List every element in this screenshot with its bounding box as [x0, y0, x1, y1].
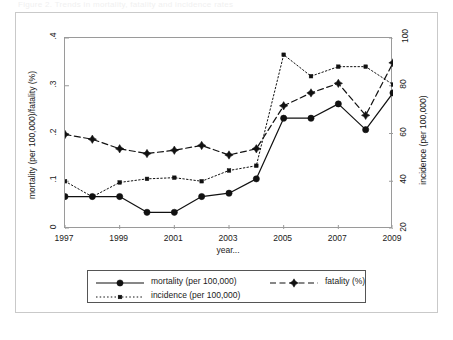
- data-point-diamond: [290, 279, 298, 287]
- legend-label: mortality (per 100,000): [151, 276, 237, 286]
- data-point-diamond: [197, 141, 205, 149]
- page-header-text: Figure 2. Trends in mortality, fatality …: [18, 0, 438, 12]
- data-point-circle: [253, 176, 259, 182]
- data-point-diamond: [170, 146, 178, 154]
- data-point-square: [118, 295, 122, 299]
- legend-item-fatality: fatality (%): [268, 274, 365, 288]
- data-point-square: [145, 177, 149, 181]
- data-point-diamond: [88, 135, 96, 143]
- tick-text: 80: [398, 79, 408, 88]
- data-point-square: [309, 74, 313, 78]
- data-point-diamond: [65, 130, 69, 138]
- data-point-diamond: [279, 102, 287, 110]
- data-point-diamond: [252, 145, 260, 153]
- data-point-circle: [117, 193, 123, 199]
- data-point-square: [337, 65, 341, 69]
- data-point-circle: [144, 209, 150, 215]
- series-line: [65, 55, 393, 197]
- left-axis-tick-label: .3: [34, 79, 56, 89]
- legend-key-svg: [268, 277, 320, 289]
- x-axis-tick-label: 2007: [317, 233, 357, 243]
- legend-label: incidence (per 100,000): [151, 290, 240, 300]
- data-point-square: [173, 176, 177, 180]
- data-point-circle: [335, 101, 341, 107]
- right-axis-tick-label: 40: [398, 174, 422, 184]
- left-axis-tick-label: 0: [34, 222, 56, 232]
- data-point-circle: [171, 209, 177, 215]
- tick-text: .3: [47, 80, 57, 87]
- legend-key-square: [94, 289, 146, 301]
- right-axis-tick-label: 60: [398, 127, 422, 137]
- data-point-diamond: [307, 89, 315, 97]
- legend-key-diamond: [268, 275, 320, 287]
- data-point-circle: [363, 127, 369, 133]
- tick-text: 0: [49, 225, 59, 230]
- tick-text: 40: [398, 175, 408, 184]
- x-axis-tick-label: 2005: [263, 233, 303, 243]
- legend-item-mortality: mortality (per 100,000): [94, 274, 237, 288]
- tick-text: .1: [47, 176, 57, 183]
- data-point-circle: [117, 280, 123, 286]
- x-axis-tick-label: 1997: [44, 233, 84, 243]
- data-point-circle: [308, 115, 314, 121]
- x-axis-tick-label: 2009: [372, 233, 412, 243]
- chart-legend: mortality (per 100,000) fatality (%) inc…: [87, 270, 366, 303]
- left-axis-tick-label: .1: [34, 174, 56, 184]
- right-axis-tick-label: 100: [398, 31, 422, 41]
- x-axis-tick-label: 2003: [208, 233, 248, 243]
- plot-svg: [65, 38, 393, 229]
- x-axis-tick-label: 2001: [153, 233, 193, 243]
- data-point-square: [200, 179, 204, 183]
- x-axis-tick-label: 1999: [99, 233, 139, 243]
- data-point-diamond: [143, 149, 151, 157]
- data-point-square: [255, 164, 259, 168]
- right-axis-tick-label: 20: [398, 222, 422, 232]
- data-point-diamond: [115, 145, 123, 153]
- legend-key-svg: [94, 291, 146, 303]
- data-point-diamond: [225, 151, 233, 159]
- left-axis-tick-label: .2: [34, 127, 56, 137]
- legend-key-circle: [94, 275, 146, 287]
- data-point-diamond: [334, 79, 342, 87]
- right-axis-tick-label: 80: [398, 79, 422, 89]
- data-point-square: [227, 169, 231, 173]
- data-point-square: [65, 179, 67, 183]
- tick-text: .2: [47, 128, 57, 135]
- tick-text: .4: [47, 32, 57, 39]
- data-point-circle: [390, 90, 393, 96]
- data-point-square: [118, 181, 122, 185]
- x-axis-title: year...: [64, 245, 392, 255]
- legend-label: fatality (%): [325, 276, 365, 286]
- data-point-square: [364, 65, 368, 69]
- left-axis-tick-label: .4: [34, 31, 56, 41]
- tick-text: 60: [398, 127, 408, 136]
- data-point-circle: [65, 193, 68, 199]
- figure-root: Figure 2. Trends in mortality, fatality …: [0, 0, 453, 340]
- legend-item-incidence: incidence (per 100,000): [94, 288, 240, 302]
- data-point-circle: [281, 115, 287, 121]
- data-point-circle: [199, 193, 205, 199]
- data-point-square: [91, 195, 95, 199]
- right-axis-title-text: incidence (per 100,000): [418, 95, 428, 184]
- series-square: [65, 53, 393, 199]
- data-point-circle: [226, 190, 232, 196]
- tick-text: 100: [400, 29, 410, 43]
- data-point-square: [391, 83, 393, 87]
- plot-area: [64, 37, 392, 228]
- tick-text: 20: [398, 222, 408, 231]
- data-point-square: [282, 53, 286, 57]
